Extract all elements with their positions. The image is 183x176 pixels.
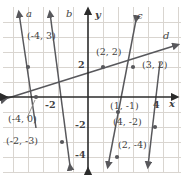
point-label-1-neg1: (1, -1) xyxy=(110,101,139,111)
point-label-neg2-neg3: (-2, -3) xyxy=(6,136,38,146)
line-label-b: b xyxy=(66,9,72,19)
point-label-2-neg4: (2, -4) xyxy=(118,140,147,150)
line-label-a: a xyxy=(26,9,32,19)
x-axis-label: x xyxy=(169,99,175,109)
coordinate-plane-figure: a b c d y x 2 -2 -4 -2 4 (-4, 3) (2, 2) … xyxy=(0,0,183,176)
point-label-4-neg2: (4, -2) xyxy=(113,117,142,127)
y-tick-neg4: -4 xyxy=(75,150,86,160)
point-label-2-2: (2, 2) xyxy=(96,47,122,57)
point-dot xyxy=(153,125,157,129)
point-label-3-2: (3, 2) xyxy=(142,60,168,70)
graph-line-c-right xyxy=(148,62,160,166)
line-label-d: d xyxy=(163,31,169,41)
graph-canvas xyxy=(0,0,183,176)
graph-line-d xyxy=(5,45,177,99)
x-tick-4: 4 xyxy=(153,100,160,110)
point-dot xyxy=(101,65,105,69)
y-tick-neg2: -2 xyxy=(75,120,86,130)
point-label-neg4-0: (-4, 0) xyxy=(8,114,37,124)
y-tick-2: 2 xyxy=(78,60,85,70)
point-dot xyxy=(34,95,38,99)
line-label-c: c xyxy=(137,11,143,21)
x-tick-neg2: -2 xyxy=(45,100,56,110)
point-label-neg4-3: (-4, 3) xyxy=(27,31,56,41)
y-axis-label: y xyxy=(95,10,101,20)
point-dot xyxy=(131,65,135,69)
point-dot xyxy=(26,65,30,69)
point-dot xyxy=(115,155,119,159)
point-dot xyxy=(60,140,64,144)
